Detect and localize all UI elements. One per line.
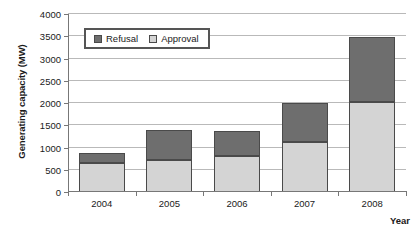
y-tick-label: 1000 [40,142,61,153]
bar-segment-approval-2007 [282,142,328,192]
legend-entry-refusal: Refusal [94,33,138,44]
bar-segment-approval-2006 [214,156,260,192]
x-tick-label-2005: 2005 [159,198,180,209]
y-tick-label: 2000 [40,98,61,109]
x-tick-mark [406,192,407,196]
x-tick-label-2008: 2008 [362,198,383,209]
legend-entry-approval: Approval [149,33,199,44]
bar-segment-refusal-2006 [214,131,260,157]
y-tick-label: 0 [56,187,61,198]
x-tick-mark [136,192,137,196]
bar-group-2006 [214,14,260,192]
x-tick-mark [203,192,204,196]
bar-group-2008 [349,14,395,192]
x-tick-mark [338,192,339,196]
x-tick-label-2007: 2007 [294,198,315,209]
bar-segment-refusal-2007 [282,103,328,142]
legend-swatch-refusal-icon [94,35,102,43]
x-tick-label-2006: 2006 [226,198,247,209]
x-tick-mark [68,192,69,196]
bar-segment-approval-2008 [349,102,395,192]
bar-segment-refusal-2008 [349,37,395,102]
y-tick-label: 3500 [40,31,61,42]
stacked-bar-chart: Generating capacity (MW) 050010001500200… [0,0,416,232]
x-axis-title: Year [390,215,410,226]
y-tick-label: 2500 [40,75,61,86]
y-axis-line [68,14,69,192]
x-tick-label-2004: 2004 [91,198,112,209]
legend: RefusalApproval [84,28,210,49]
x-axis-line [68,191,407,192]
bar-segment-refusal-2005 [146,130,192,160]
bar-segment-approval-2004 [79,163,125,192]
bar-segment-refusal-2004 [79,153,125,163]
y-tick-label: 4000 [40,9,61,20]
legend-label-approval: Approval [161,33,199,44]
bar-group-2007 [282,14,328,192]
bar-segment-approval-2005 [146,160,192,192]
y-tick-label: 1500 [40,120,61,131]
x-tick-mark [271,192,272,196]
y-tick-label: 500 [45,164,61,175]
y-tick-label: 3000 [40,53,61,64]
legend-label-refusal: Refusal [106,33,138,44]
legend-swatch-approval-icon [149,35,157,43]
plot-area: 05001000150020002500300035004000 2004200… [68,14,406,192]
y-axis-title: Generating capacity (MW) [16,7,27,197]
